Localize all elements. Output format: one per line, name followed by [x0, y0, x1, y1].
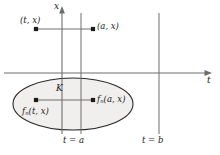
region-label-k: K: [56, 84, 63, 93]
point-marker-fn-ax: [91, 98, 95, 102]
point-label-tx: (t, x): [20, 16, 40, 25]
t-axis-label: t: [207, 76, 211, 85]
math-diagram-figure: x t (t, x) (a, x) K fn(t, x) fn(a, x) t …: [0, 0, 220, 155]
point-label-ax: (a, x): [97, 22, 119, 31]
fn-ax-args: (a, x): [104, 94, 126, 104]
x-axis-arrowhead: [59, 6, 65, 14]
point-marker-ax: [91, 27, 95, 31]
fn-tx-args: (t, x): [29, 106, 49, 116]
x-axis-label: x: [54, 2, 59, 11]
label-t-equals-a: t = a: [63, 136, 84, 145]
function-label-fn-ax: fn(a, x): [97, 95, 125, 104]
function-label-fn-tx: fn(t, x): [22, 107, 49, 116]
point-marker-tx: [34, 27, 38, 31]
point-marker-fn-tx: [34, 98, 38, 102]
label-t-equals-b: t = b: [142, 136, 163, 145]
